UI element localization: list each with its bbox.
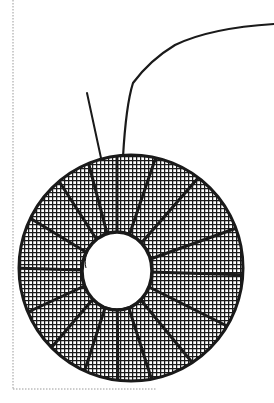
toroid-hole xyxy=(82,232,152,310)
toroid-body xyxy=(0,0,274,403)
toroid-illustration: Hand-drawn toroid core wrapped with cros… xyxy=(0,0,274,403)
